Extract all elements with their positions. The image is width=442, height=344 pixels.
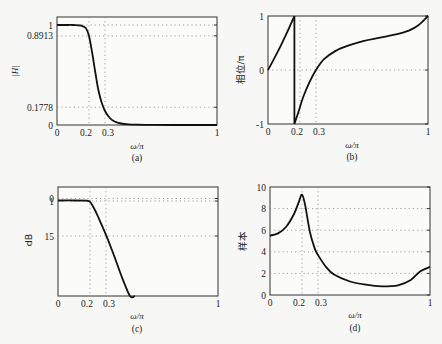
y-tick-label: 0.8913	[27, 31, 53, 41]
x-tick-label: 0	[266, 127, 271, 137]
panel-d-axes	[270, 187, 430, 295]
x-tick-label: 0	[56, 299, 61, 309]
panel-c-xlabel: ω/π	[130, 311, 144, 321]
x-tick-label: 1	[428, 298, 433, 308]
x-tick-label: 1	[216, 299, 221, 309]
panel-c-axes	[58, 187, 218, 296]
panel-d-ylabel: 样本	[237, 231, 248, 251]
y-tick-label: 6	[261, 226, 266, 236]
x-tick-label: 0.3	[313, 127, 325, 137]
panel-b-ylabel: 相位/π	[235, 55, 246, 84]
panel-a-axes	[57, 17, 217, 125]
y-tick-label: -1	[256, 120, 264, 130]
panel-b-xlabel: ω/π	[345, 140, 359, 150]
x-tick-label: 0.2	[81, 299, 93, 309]
y-tick-label: 1	[49, 197, 54, 207]
figure: 00.20.3100.17780.89131 |H| ω/π (a) 00.20…	[0, 0, 442, 344]
panel-b-caption: (b)	[346, 152, 357, 163]
panel-a-caption: (a)	[132, 153, 143, 164]
y-tick-label: 0.1778	[27, 103, 53, 113]
panel-c: 00.20.310115 dB ω/π (c)	[23, 187, 221, 335]
x-tick-label: 0.3	[102, 128, 114, 138]
x-tick-label: 0	[55, 128, 60, 138]
x-tick-label: 1	[215, 128, 220, 138]
y-tick-label: 15	[45, 232, 55, 242]
x-tick-label: 1	[426, 127, 431, 137]
x-tick-label: 0.2	[80, 128, 92, 138]
y-tick-label: 10	[257, 183, 267, 193]
x-tick-label: 0.3	[315, 298, 327, 308]
x-tick-label: 0.2	[291, 127, 303, 137]
panel-b: 00.20.31-101 相位/π ω/π (b)	[235, 12, 431, 164]
panel-d: 00.20.310246810 样本 ω/π (d)	[237, 183, 433, 335]
x-tick-label: 0	[268, 298, 273, 308]
panel-a-ylabel: |H|	[10, 65, 20, 76]
panel-d-xlabel: ω/π	[348, 310, 362, 320]
x-tick-label: 0.2	[293, 298, 305, 308]
y-tick-label: 4	[261, 247, 266, 257]
y-tick-label: 1	[48, 21, 53, 31]
panel-c-caption: (c)	[132, 324, 143, 335]
y-tick-label: 2	[261, 269, 266, 279]
y-tick-label: 8	[261, 204, 266, 214]
panel-c-ylabel: dB	[23, 234, 34, 247]
y-tick-label: 0	[48, 121, 53, 131]
panel-a: 00.20.3100.17780.89131 |H| ω/π (a)	[10, 17, 220, 164]
y-tick-label: 0	[261, 291, 266, 301]
panel-a-xlabel: ω/π	[130, 141, 144, 151]
y-tick-label: 1	[259, 12, 264, 22]
panel-d-caption: (d)	[349, 323, 360, 334]
y-tick-label: 0	[259, 66, 264, 76]
x-tick-label: 0.3	[103, 299, 115, 309]
